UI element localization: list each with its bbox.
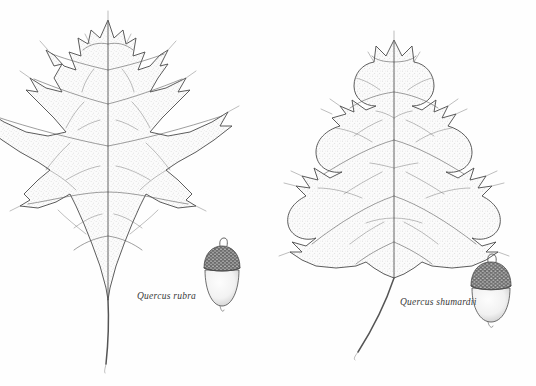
- acorn-stem: [220, 238, 228, 246]
- acorn-nut: [205, 270, 239, 306]
- leaf-petiole: [106, 300, 108, 364]
- acorn-nut: [472, 288, 510, 322]
- acorn-tip: [220, 306, 224, 311]
- acorn-cap: [471, 262, 511, 290]
- acorn-tip: [488, 322, 493, 327]
- leaf-blade-outline: [0, 20, 232, 300]
- acorn-cap: [204, 246, 240, 271]
- quercus-shumardii-leaf-drawing: [276, 0, 536, 386]
- quercus-rubra-leaf-drawing: [0, 0, 260, 386]
- label-quercus-rubra: Quercus rubra: [137, 291, 196, 301]
- label-quercus-shumardii: Quercus shumardii: [400, 297, 477, 307]
- specimen-quercus-rubra: Quercus rubra: [0, 0, 260, 386]
- petiole-tip: [105, 364, 106, 373]
- acorn-quercus-shumardii: [471, 254, 511, 327]
- acorn-quercus-rubra: [204, 238, 240, 311]
- botanical-plate: Quercus rubra: [0, 0, 536, 386]
- leaf-petiole: [358, 278, 394, 352]
- petiole-tip: [354, 352, 358, 360]
- specimen-quercus-shumardii: Quercus shumardii: [276, 0, 536, 386]
